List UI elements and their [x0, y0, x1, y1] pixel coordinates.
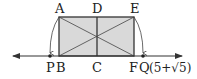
label-b: B — [56, 60, 66, 75]
label-q-coordinate: (5+√5) — [149, 61, 191, 75]
label-c: C — [92, 60, 102, 75]
label-a: A — [54, 1, 65, 16]
point-p — [48, 54, 52, 58]
geometry-diagram: A D E P B C F Q (5+√5) — [0, 0, 197, 79]
label-e: E — [130, 1, 140, 16]
label-f: F — [129, 60, 138, 75]
arc-a-to-p — [50, 17, 59, 53]
label-d: D — [92, 1, 102, 16]
point-q — [141, 54, 145, 58]
arc-e-to-q — [134, 17, 143, 53]
label-p: P — [46, 60, 55, 75]
